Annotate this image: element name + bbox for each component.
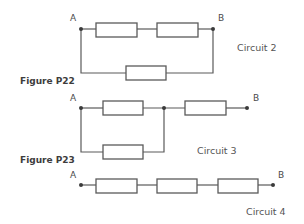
circuit-title: Circuit 3 <box>197 146 237 156</box>
resistor-icon <box>103 101 143 115</box>
terminal-dot-icon <box>79 106 83 110</box>
terminal-label-b: B <box>253 94 259 103</box>
figure-caption: Figure P23 <box>20 156 75 165</box>
junction-dot-icon <box>162 106 166 110</box>
terminal-label-a: A <box>70 171 76 180</box>
wire <box>143 108 164 152</box>
resistor-icon <box>157 23 198 37</box>
terminal-label-a: A <box>70 94 76 103</box>
resistor-icon <box>157 179 197 193</box>
terminal-label-b: B <box>278 171 284 180</box>
terminal-dot-icon <box>211 27 215 31</box>
terminal-dot-icon <box>245 106 249 110</box>
circuit-diagrams <box>0 0 304 224</box>
resistor-icon <box>126 66 166 80</box>
terminal-dot-icon <box>271 183 275 187</box>
resistor-icon <box>218 179 258 193</box>
resistor-icon <box>96 23 137 37</box>
circuit-title: Circuit 4 <box>246 207 286 217</box>
resistor-icon <box>96 179 137 193</box>
wire <box>81 108 103 152</box>
resistor-icon <box>103 145 143 159</box>
resistor-icon <box>185 101 226 115</box>
circuit-circuit-2 <box>79 23 215 80</box>
terminal-label-b: B <box>218 14 224 23</box>
circuit-title: Circuit 2 <box>237 43 277 53</box>
terminal-label-a: A <box>70 14 76 23</box>
terminal-dot-icon <box>79 27 83 31</box>
terminal-dot-icon <box>79 183 83 187</box>
figure-caption: Figure P22 <box>20 77 75 86</box>
circuit-circuit-4 <box>79 179 275 193</box>
